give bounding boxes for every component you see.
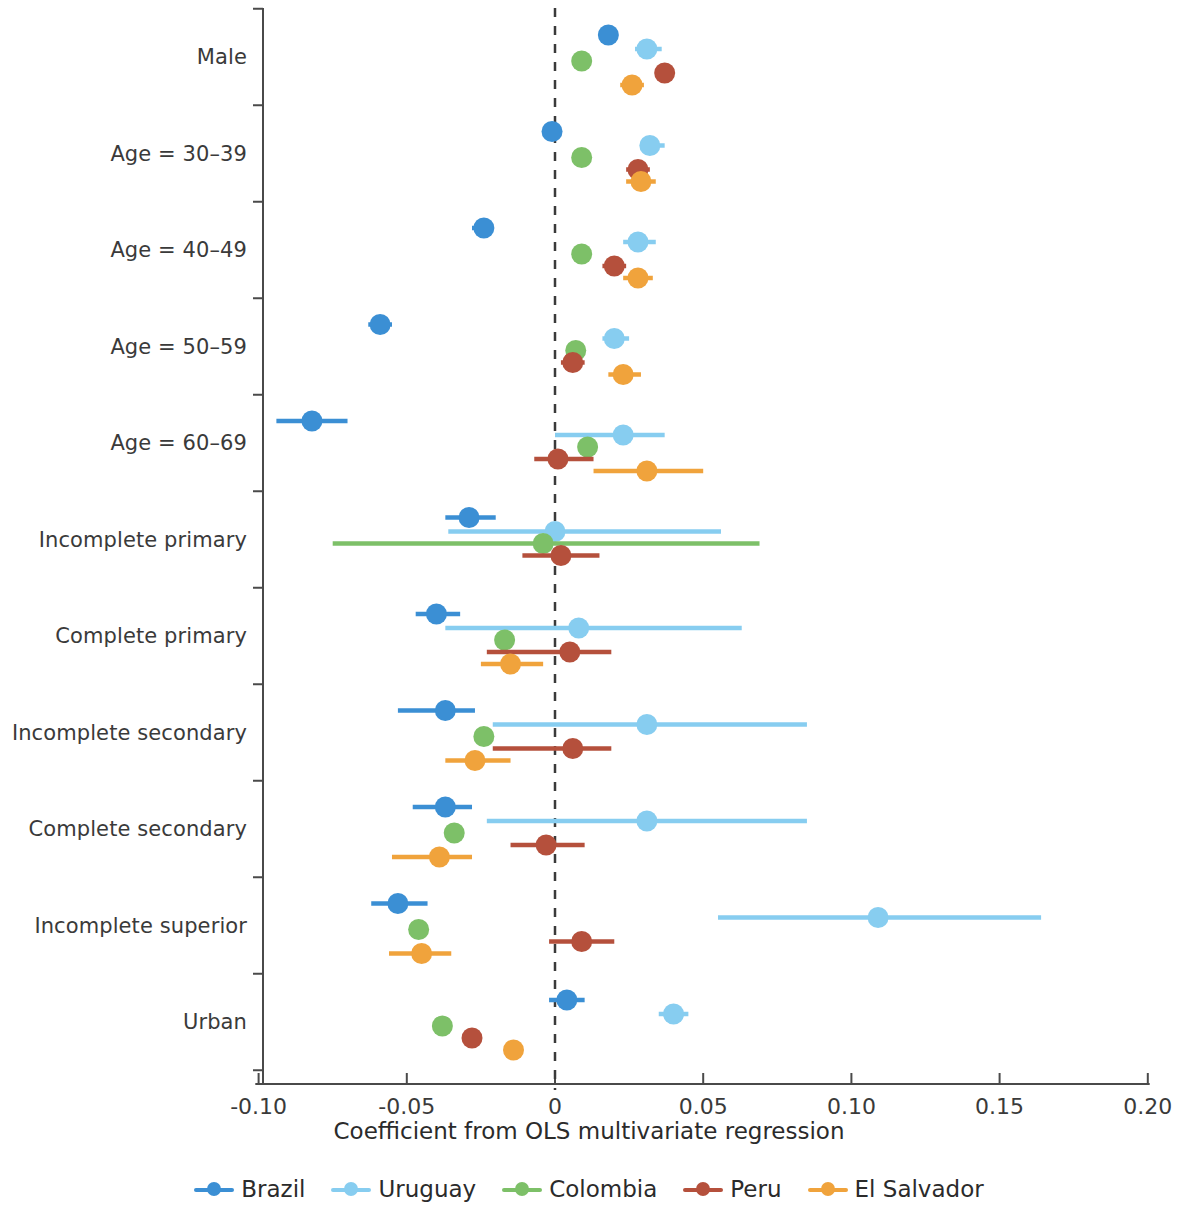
legend-marker-icon	[683, 1180, 723, 1198]
x-axis-tick-label: -0.10	[230, 1094, 287, 1119]
data-point	[654, 63, 675, 84]
y-axis-label: Age = 40–49	[0, 238, 247, 262]
data-point	[462, 1028, 483, 1049]
x-axis-tick-label: -0.05	[378, 1094, 435, 1119]
data-point	[639, 135, 660, 156]
legend-marker-icon	[502, 1180, 542, 1198]
y-axis-label: Complete secondary	[0, 817, 247, 841]
data-point	[473, 726, 494, 747]
legend-label: Brazil	[241, 1176, 305, 1202]
series-uruguay	[445, 39, 1041, 1025]
data-point	[636, 714, 657, 735]
legend: BrazilUruguayColombiaPeruEl Salvador	[0, 1176, 1178, 1202]
data-point	[604, 256, 625, 277]
y-axis-label: Incomplete primary	[0, 528, 247, 552]
data-point	[663, 1004, 684, 1025]
y-axis-label: Complete primary	[0, 624, 247, 648]
data-point	[571, 931, 592, 952]
coefficient-plot-figure: MaleAge = 30–39Age = 40–49Age = 50–59Age…	[0, 0, 1178, 1208]
legend-marker-icon	[808, 1180, 848, 1198]
data-point	[571, 147, 592, 168]
x-axis-tick-label: 0.05	[679, 1094, 728, 1119]
data-point	[613, 425, 634, 446]
data-point	[622, 75, 643, 96]
legend-item-el-salvador[interactable]: El Salvador	[808, 1176, 984, 1202]
data-point	[536, 835, 557, 856]
legend-item-colombia[interactable]: Colombia	[502, 1176, 657, 1202]
data-point	[559, 642, 580, 663]
data-point	[562, 738, 583, 759]
y-axis-label: Age = 30–39	[0, 142, 247, 166]
data-point	[533, 533, 554, 554]
legend-label: El Salvador	[855, 1176, 984, 1202]
y-axis-label: Incomplete superior	[0, 914, 247, 938]
x-axis-tick-label: 0.15	[975, 1094, 1024, 1119]
data-point	[503, 1040, 524, 1061]
data-point	[604, 328, 625, 349]
data-point	[598, 25, 619, 46]
data-point	[542, 121, 563, 142]
x-axis-title: Coefficient from OLS multivariate regres…	[0, 1118, 1178, 1144]
data-point	[387, 893, 408, 914]
legend-marker-icon	[331, 1180, 371, 1198]
data-point	[500, 654, 521, 675]
legend-item-peru[interactable]: Peru	[683, 1176, 781, 1202]
series-el-salvador	[389, 75, 703, 1061]
data-point	[630, 171, 651, 192]
data-point	[568, 618, 589, 639]
y-axis-label: Incomplete secondary	[0, 721, 247, 745]
legend-label: Peru	[730, 1176, 781, 1202]
data-point	[636, 39, 657, 60]
data-point	[432, 1016, 453, 1037]
y-axis-label: Age = 50–59	[0, 335, 247, 359]
series-peru	[462, 63, 676, 1049]
data-point	[408, 919, 429, 940]
data-point	[562, 352, 583, 373]
x-axis-tick-label: 0	[548, 1094, 562, 1119]
data-point	[301, 411, 322, 432]
data-point	[459, 507, 480, 528]
data-point	[627, 232, 648, 253]
data-point	[550, 545, 571, 566]
x-axis-tick-label: 0.20	[1123, 1094, 1172, 1119]
data-point	[494, 630, 515, 651]
data-point	[571, 51, 592, 72]
data-point	[577, 437, 598, 458]
legend-item-uruguay[interactable]: Uruguay	[331, 1176, 476, 1202]
legend-item-brazil[interactable]: Brazil	[194, 1176, 305, 1202]
data-point	[627, 268, 648, 289]
data-point	[636, 461, 657, 482]
series-colombia	[333, 51, 760, 1037]
data-point	[426, 604, 447, 625]
data-point	[473, 218, 494, 239]
legend-label: Uruguay	[378, 1176, 476, 1202]
data-point	[556, 990, 577, 1011]
data-point	[464, 750, 485, 771]
data-point	[411, 943, 432, 964]
data-point	[547, 449, 568, 470]
x-axis-tick-label: 0.10	[827, 1094, 876, 1119]
data-point	[571, 244, 592, 265]
data-point	[429, 847, 450, 868]
data-point	[444, 823, 465, 844]
y-axis-label: Urban	[0, 1010, 247, 1034]
y-axis-label: Male	[0, 45, 247, 69]
data-point	[435, 797, 456, 818]
data-point	[613, 364, 634, 385]
data-point	[435, 700, 456, 721]
data-point	[370, 314, 391, 335]
legend-label: Colombia	[549, 1176, 657, 1202]
data-point	[868, 907, 889, 928]
data-point	[636, 811, 657, 832]
y-axis-label: Age = 60–69	[0, 431, 247, 455]
legend-marker-icon	[194, 1180, 234, 1198]
